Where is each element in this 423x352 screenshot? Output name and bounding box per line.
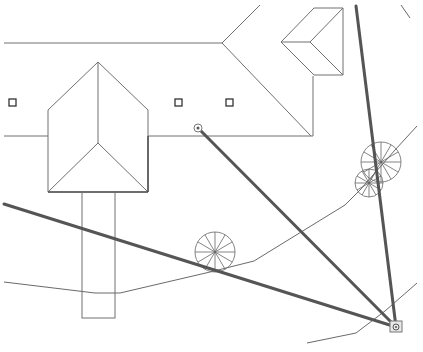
sightline-north[interactable] — [356, 6, 396, 327]
vent-icon — [175, 99, 182, 106]
site-plan-canvas[interactable] — [0, 0, 423, 352]
arc-fragment — [401, 5, 410, 18]
target-box-marker[interactable] — [390, 321, 402, 332]
dormer — [281, 8, 343, 75]
main-roof-top-edge — [4, 5, 260, 43]
vents — [9, 99, 233, 106]
origin-point-marker[interactable] — [194, 124, 202, 132]
sightline-west[interactable] — [4, 204, 396, 327]
vent-icon — [9, 99, 16, 106]
walkway — [82, 192, 115, 318]
front-wing — [48, 62, 148, 192]
vent-icon — [226, 99, 233, 106]
building-outline — [4, 5, 343, 318]
main-roof-ridge — [222, 43, 311, 136]
sightlines[interactable] — [4, 6, 396, 327]
trees — [195, 142, 401, 272]
